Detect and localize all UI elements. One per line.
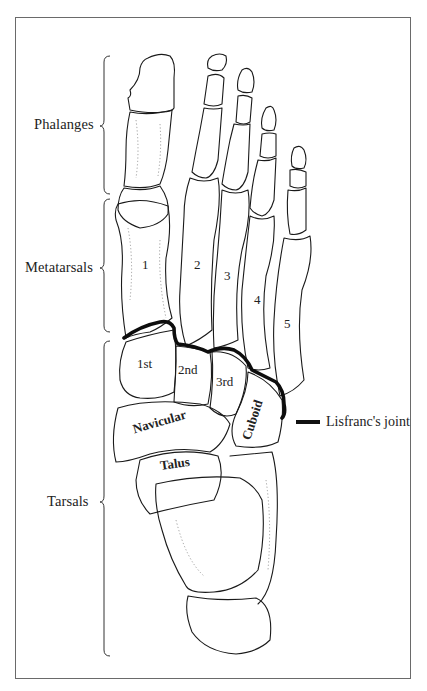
metatarsal-number-4: 4 bbox=[254, 292, 261, 308]
label-phalanges: Phalanges bbox=[34, 116, 94, 133]
toe-5 bbox=[274, 146, 311, 396]
region-braces bbox=[100, 56, 110, 656]
legend-label: Lisfranc's joint bbox=[326, 414, 410, 430]
cuneiform-2-label: 2nd bbox=[178, 362, 198, 378]
cuneiform-3-label: 3rd bbox=[216, 374, 233, 390]
metatarsal-number-2: 2 bbox=[194, 257, 201, 273]
label-tarsals: Tarsals bbox=[47, 493, 89, 510]
toe-4 bbox=[242, 106, 276, 370]
legend-swatch-joint-line bbox=[296, 420, 320, 424]
label-metatarsals: Metatarsals bbox=[25, 259, 93, 276]
metatarsal-number-1: 1 bbox=[142, 257, 149, 273]
metatarsal-number-5: 5 bbox=[284, 316, 291, 332]
toe-3 bbox=[213, 68, 254, 348]
tarsal-bones bbox=[113, 330, 282, 654]
cuneiform-1-label: 1st bbox=[137, 356, 152, 372]
toe-2 bbox=[180, 54, 227, 346]
foot-skeleton-illustration bbox=[0, 0, 427, 691]
metatarsal-number-3: 3 bbox=[224, 268, 231, 284]
legend: Lisfranc's joint bbox=[296, 414, 410, 430]
